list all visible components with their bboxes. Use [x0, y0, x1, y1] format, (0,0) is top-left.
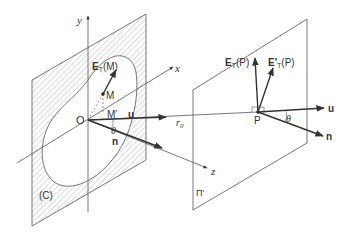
- u-right-label: u: [328, 103, 334, 114]
- E-T-M-label: ET(M): [92, 61, 118, 73]
- svg-text:r0: r0: [176, 117, 184, 130]
- E-prime-T-P-vector: [258, 68, 273, 112]
- x-axis-label: x: [174, 62, 180, 74]
- y-axis-label: y: [76, 14, 82, 26]
- point-M-prime-label: M′: [107, 109, 117, 120]
- n-left-label: n: [112, 136, 118, 147]
- r0-label: r0: [176, 117, 184, 130]
- n-right-label: n: [326, 131, 332, 142]
- svg-text:ET(P): ET(P): [225, 57, 249, 69]
- E-T-P-vector: [255, 58, 258, 112]
- svg-text:E′T(P): E′T(P): [268, 57, 295, 69]
- contour-label: (C): [39, 190, 53, 201]
- z-axis-label: z: [210, 165, 216, 177]
- u-vector-right: [258, 108, 324, 112]
- origin-label: O: [76, 114, 85, 126]
- E-T-P-label: ET(P): [225, 57, 249, 69]
- u-left-label: u: [128, 109, 134, 120]
- point-P-label: P: [254, 115, 261, 126]
- svg-text:ET(M): ET(M): [92, 61, 118, 73]
- theta-right-label: θ: [286, 113, 291, 124]
- diffraction-diagram: y x z O M M′ u θ n ET(M) r0 (C) Π′ P ET(…: [0, 0, 347, 234]
- plane-pi-label: Π′: [196, 188, 204, 198]
- E-prime-T-P-label: E′T(P): [268, 57, 295, 69]
- theta-left-label: θ: [111, 125, 116, 136]
- point-M-label: M: [106, 90, 114, 101]
